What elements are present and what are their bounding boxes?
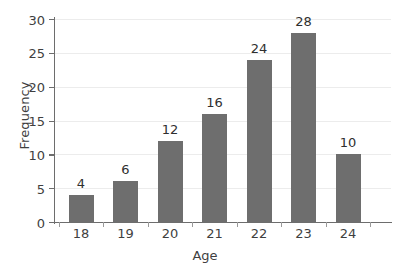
bar[interactable] xyxy=(202,114,227,222)
x-tick-mark xyxy=(237,222,238,227)
bar-value-label: 6 xyxy=(121,162,129,177)
y-tick-label: 0 xyxy=(37,215,45,230)
x-axis-title: Age xyxy=(55,248,355,263)
y-tick-label: 15 xyxy=(28,114,45,129)
x-tick-mark xyxy=(281,222,282,227)
x-tick-label: 23 xyxy=(295,226,312,241)
x-tick-label: 20 xyxy=(162,226,179,241)
bar-value-label: 12 xyxy=(162,122,179,137)
y-axis-tick: 0 xyxy=(49,222,55,223)
bars-layer: 461216242810 xyxy=(55,19,391,222)
x-tick-mark xyxy=(148,222,149,227)
x-tick-mark xyxy=(192,222,193,227)
bar[interactable] xyxy=(69,195,94,222)
bar-value-label: 16 xyxy=(206,95,223,110)
bar[interactable] xyxy=(336,154,361,222)
y-tick-label: 20 xyxy=(28,80,45,95)
y-tick-label: 30 xyxy=(28,12,45,27)
x-tick-label: 19 xyxy=(117,226,134,241)
x-tick-mark xyxy=(103,222,104,227)
x-tick-mark xyxy=(326,222,327,227)
y-tick-label: 10 xyxy=(28,147,45,162)
bar-value-label: 24 xyxy=(251,41,268,56)
bar[interactable] xyxy=(158,141,183,222)
bar-chart: Frequency 051015202530 461216242810 1819… xyxy=(0,0,406,274)
x-tick-label: 18 xyxy=(73,226,90,241)
x-tick-label: 22 xyxy=(251,226,268,241)
y-tick-label: 25 xyxy=(28,46,45,61)
bar[interactable] xyxy=(113,181,138,222)
y-tick-mark xyxy=(49,222,55,223)
y-tick-label: 5 xyxy=(37,181,45,196)
x-tick-mark xyxy=(59,222,60,227)
x-tick-label: 21 xyxy=(206,226,223,241)
x-tick-mark xyxy=(370,222,371,227)
bar-value-label: 28 xyxy=(295,14,312,29)
bar[interactable] xyxy=(247,60,272,222)
bar-value-label: 10 xyxy=(340,135,357,150)
x-tick-label: 24 xyxy=(340,226,357,241)
bar[interactable] xyxy=(291,33,316,222)
bar-value-label: 4 xyxy=(77,176,85,191)
